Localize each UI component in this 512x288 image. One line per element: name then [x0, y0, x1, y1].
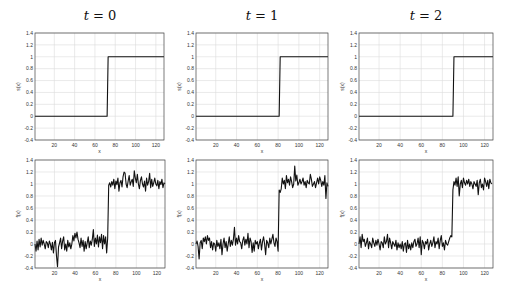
x-axis-label: x	[261, 148, 264, 154]
svg-text:0.4: 0.4	[187, 217, 194, 223]
svg-text:0.8: 0.8	[350, 65, 357, 71]
svg-text:80: 80	[113, 270, 119, 276]
y-axis-label: f(x)	[339, 210, 345, 218]
svg-text:0.6: 0.6	[26, 205, 33, 211]
x-axis-label: x	[425, 148, 428, 154]
svg-text:1: 1	[354, 54, 357, 60]
svg-text:60: 60	[93, 270, 99, 276]
svg-text:1.4: 1.4	[187, 157, 194, 163]
svg-text:0.4: 0.4	[187, 89, 194, 95]
svg-text:100: 100	[132, 270, 141, 276]
x-axis-label: x	[261, 276, 264, 282]
subplot-bottom-0: 20406080100120-0.4-0.200.20.40.60.811.21…	[15, 157, 165, 282]
svg-text:120: 120	[316, 270, 325, 276]
svg-text:-0.4: -0.4	[348, 137, 357, 143]
svg-text:1.4: 1.4	[350, 30, 357, 36]
svg-text:80: 80	[275, 270, 281, 276]
svg-text:-0.2: -0.2	[185, 125, 194, 131]
svg-text:1: 1	[191, 54, 194, 60]
svg-text:0.2: 0.2	[350, 229, 357, 235]
svg-text:0.6: 0.6	[187, 77, 194, 83]
y-axis-label: s(x)	[339, 82, 345, 91]
svg-text:-0.4: -0.4	[24, 265, 33, 271]
svg-text:0.6: 0.6	[350, 77, 357, 83]
svg-text:40: 40	[397, 142, 403, 148]
svg-text:80: 80	[440, 142, 446, 148]
svg-text:0: 0	[30, 113, 33, 119]
svg-text:1: 1	[30, 54, 33, 60]
svg-text:0.2: 0.2	[187, 229, 194, 235]
svg-text:-0.4: -0.4	[185, 137, 194, 143]
svg-text:0.8: 0.8	[187, 65, 194, 71]
svg-text:1.4: 1.4	[187, 30, 194, 36]
svg-text:0.4: 0.4	[350, 217, 357, 223]
svg-text:100: 100	[459, 142, 468, 148]
y-axis-label: f(x)	[176, 210, 182, 218]
svg-text:1: 1	[191, 181, 194, 187]
svg-text:0.4: 0.4	[26, 217, 33, 223]
svg-text:-0.2: -0.2	[24, 125, 33, 131]
svg-text:-0.2: -0.2	[24, 253, 33, 259]
svg-text:120: 120	[152, 142, 161, 148]
svg-text:100: 100	[459, 270, 468, 276]
svg-text:100: 100	[295, 142, 304, 148]
svg-text:1.4: 1.4	[26, 157, 33, 163]
svg-text:60: 60	[255, 270, 261, 276]
x-axis-label: x	[425, 276, 428, 282]
svg-text:1: 1	[30, 181, 33, 187]
subplot-top-2: 20406080100120-0.4-0.200.20.40.60.811.21…	[339, 30, 493, 154]
svg-text:1.2: 1.2	[350, 42, 357, 48]
svg-text:1.2: 1.2	[350, 169, 357, 175]
svg-text:0.2: 0.2	[350, 101, 357, 107]
svg-text:20: 20	[213, 270, 219, 276]
svg-text:0.6: 0.6	[350, 205, 357, 211]
svg-text:80: 80	[440, 270, 446, 276]
svg-text:1.2: 1.2	[187, 42, 194, 48]
svg-text:0.6: 0.6	[26, 77, 33, 83]
svg-text:0.4: 0.4	[350, 89, 357, 95]
svg-text:0.8: 0.8	[26, 193, 33, 199]
svg-text:1.2: 1.2	[26, 42, 33, 48]
svg-text:0: 0	[191, 241, 194, 247]
svg-text:1.2: 1.2	[187, 169, 194, 175]
y-axis-label: s(x)	[176, 82, 182, 91]
svg-text:-0.4: -0.4	[24, 137, 33, 143]
svg-text:40: 40	[234, 142, 240, 148]
subplot-bottom-2: 20406080100120-0.4-0.200.20.40.60.811.21…	[339, 157, 493, 282]
subplot-bottom-1: 20406080100120-0.4-0.200.20.40.60.811.21…	[176, 157, 328, 282]
svg-text:60: 60	[255, 142, 261, 148]
svg-text:60: 60	[418, 142, 424, 148]
svg-text:0: 0	[354, 113, 357, 119]
svg-text:120: 120	[480, 270, 489, 276]
svg-text:0: 0	[191, 113, 194, 119]
x-axis-label: x	[99, 276, 102, 282]
svg-text:-0.2: -0.2	[348, 253, 357, 259]
svg-text:60: 60	[418, 270, 424, 276]
svg-text:0: 0	[30, 241, 33, 247]
y-axis-label: f(x)	[15, 210, 21, 218]
svg-text:60: 60	[92, 142, 98, 148]
y-axis-label: s(x)	[15, 82, 21, 91]
svg-text:20: 20	[376, 142, 382, 148]
svg-text:1: 1	[354, 181, 357, 187]
svg-text:20: 20	[213, 142, 219, 148]
svg-text:0.6: 0.6	[187, 205, 194, 211]
svg-text:120: 120	[153, 270, 162, 276]
svg-text:0.8: 0.8	[187, 193, 194, 199]
figure-canvas: 20406080100120-0.4-0.200.20.40.60.811.21…	[0, 0, 512, 288]
svg-text:40: 40	[72, 142, 78, 148]
svg-text:1.4: 1.4	[350, 157, 357, 163]
svg-text:1.2: 1.2	[26, 169, 33, 175]
svg-text:120: 120	[316, 142, 325, 148]
svg-text:0.2: 0.2	[187, 101, 194, 107]
svg-text:100: 100	[295, 270, 304, 276]
svg-text:-0.2: -0.2	[348, 125, 357, 131]
svg-text:0.2: 0.2	[26, 101, 33, 107]
svg-text:40: 40	[72, 270, 78, 276]
svg-text:120: 120	[480, 142, 489, 148]
svg-text:-0.4: -0.4	[348, 265, 357, 271]
svg-text:20: 20	[52, 270, 58, 276]
svg-text:0.8: 0.8	[350, 193, 357, 199]
subplot-top-1: 20406080100120-0.4-0.200.20.40.60.811.21…	[176, 30, 328, 154]
svg-text:80: 80	[275, 142, 281, 148]
